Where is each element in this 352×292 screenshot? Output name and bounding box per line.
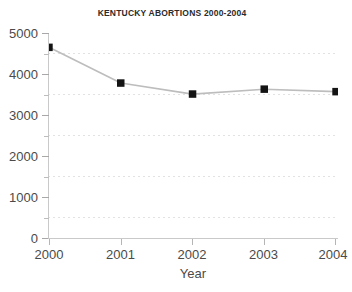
x-tick-label-2003: 2003 [234,248,294,261]
x-tick-2004 [335,239,336,245]
x-tick-label-2004: 2004 [303,248,352,261]
chart-title: KENTUCKY ABORTIONS 2000-2004 [0,8,344,18]
y-tick-3000 [42,115,49,116]
y-tick-minor-4500 [44,54,49,55]
y-tick-1000 [42,197,49,198]
data-line [49,47,336,94]
y-tick-label-2000: 2000 [0,150,38,163]
data-point-2004 [332,88,338,96]
x-tick-2000 [49,239,50,245]
y-tick-label-4000: 4000 [0,68,38,81]
data-point-2002 [189,90,197,98]
y-tick-label-0: 0 [0,232,38,245]
plot-svg [48,33,338,238]
y-tick-4000 [42,74,49,75]
y-tick-label-1000: 1000 [0,191,38,204]
x-axis-title: Year [48,266,338,281]
y-tick-minor-500 [44,218,49,219]
y-tick-minor-1500 [44,177,49,178]
y-tick-5000 [42,33,49,34]
x-tick-label-2000: 2000 [19,248,79,261]
y-tick-2000 [42,156,49,157]
x-tick-label-2002: 2002 [162,248,222,261]
y-tick-label-3000: 3000 [0,109,38,122]
data-point-2003 [261,85,269,93]
x-tick-label-2001: 2001 [91,248,151,261]
x-tick-2002 [192,239,193,245]
plot-area [48,33,338,238]
y-tick-label-5000: 5000 [0,27,38,40]
y-tick-minor-3500 [44,95,49,96]
data-point-2001 [117,79,125,87]
gridlines-horizontal [48,54,338,218]
y-tick-minor-2500 [44,136,49,137]
x-tick-2003 [264,239,265,245]
x-tick-2001 [121,239,122,245]
x-axis-line [48,238,338,239]
